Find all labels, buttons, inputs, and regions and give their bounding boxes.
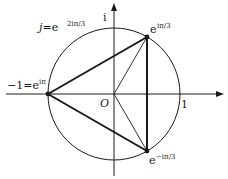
j-label: j=e [36,21,58,34]
complex-plane-diagram: i 1 O j=e 2iπ/3 −1=e iπ e iπ/3 e −iπ/3 [0,0,228,179]
imag-axis-label: i [103,11,107,24]
top-vertex-label-exponent: iπ/3 [157,22,171,30]
j-label-exponent: 2iπ/3 [67,20,85,28]
point-minus-one [46,92,51,97]
top-vertex-label: e [150,23,157,36]
minus-one-label-exponent: iπ [39,78,46,86]
real-axis-label: 1 [181,98,188,111]
origin-label: O [100,97,109,110]
bottom-vertex-label: e [149,154,156,167]
point-e-i-pi-3 [145,35,150,40]
real-axis-arrow-icon [216,91,224,97]
triangle-side-left-top [48,37,147,94]
imaginary-axis-arrow-icon [111,3,117,11]
point-e-minus-i-pi-3 [145,149,150,154]
triangle-side-left-bottom [48,94,147,151]
minus-one-label: −1=e [7,79,39,92]
j-label-base: =e [42,21,58,34]
bottom-vertex-label-exponent: −iπ/3 [156,153,176,161]
